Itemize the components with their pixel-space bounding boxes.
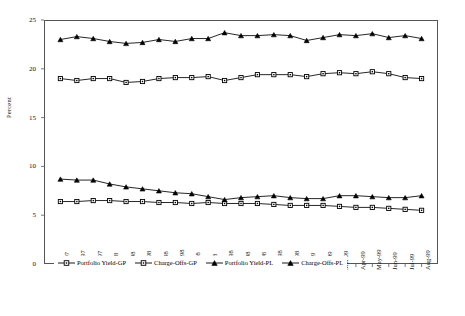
data-point-marker-core [143,262,144,263]
y-axis-tick-label: 25 [10,16,36,24]
x-axis-tick-label: May-99 [375,249,382,270]
series-portfolio-yield-pl [58,30,424,45]
data-point-marker-core [76,201,77,202]
y-axis-tick-label: 5 [10,211,36,219]
data-point-marker-core [125,201,126,202]
data-point-marker-core [306,205,307,206]
data-point-marker-core [290,205,291,206]
data-point-marker-core [339,206,340,207]
legend-label: Portfolio Yield-PL [225,259,273,267]
data-point-marker-core [60,201,61,202]
data-point-marker-core [76,80,77,81]
data-point-marker-core [191,203,192,204]
data-point-marker-core [175,77,176,78]
legend-label: Charge-Offs-GP [154,259,197,267]
data-point-marker-core [240,77,241,78]
data-point-marker-core [93,200,94,201]
y-axis-tick-label: 20 [10,65,36,73]
data-point-marker-core [109,200,110,201]
series-charge-offs-gp [58,198,423,212]
data-point-marker-core [158,202,159,203]
data-point-marker-core [175,202,176,203]
y-axis-tick-label: 15 [10,114,36,122]
data-point-marker-core [257,74,258,75]
chart-container: Percent 0510152025 Oct-97Nov-97Dec-97Jan… [0,0,465,316]
data-point-marker-core [306,76,307,77]
data-point-marker-core [404,209,405,210]
data-point-marker-core [207,202,208,203]
data-point-marker-core [66,262,67,263]
legend-marker-square-icon [135,259,152,267]
data-point-marker-core [273,74,274,75]
data-point-marker-core [60,78,61,79]
y-axis-tick-label: 0 [10,260,36,268]
x-axis-tick-label: Apr-99 [359,251,366,270]
legend-entry[interactable]: Portfolio Yield-PL [206,259,273,267]
data-point-marker-core [421,78,422,79]
legend-marker-triangle-icon [206,259,223,267]
legend-label: Portfolio Yield-GP [77,259,126,267]
series-charge-offs-pl [58,177,424,202]
data-point-marker-core [372,207,373,208]
data-point-marker-core [322,205,323,206]
data-point-marker-core [109,78,110,79]
legend-label: Charge-Offs-PL [301,259,343,267]
data-point-marker-core [257,203,258,204]
data-point-marker-core [125,82,126,83]
data-point-marker-core [191,77,192,78]
data-point-marker-core [322,73,323,74]
data-point-marker-core [388,73,389,74]
data-point-marker-core [224,203,225,204]
series-portfolio-yield-gp [58,70,423,85]
data-point-marker-core [404,77,405,78]
data-point-marker-core [142,201,143,202]
legend-entry[interactable]: Charge-Offs-PL [282,259,343,267]
data-point-marker-core [421,210,422,211]
legend-entry[interactable]: Charge-Offs-GP [135,259,197,267]
data-point-marker-core [355,73,356,74]
chart-legend: Portfolio Yield-GPCharge-Offs-GPPortfoli… [54,256,347,270]
x-axis-tick-label: Aug-99 [424,250,431,270]
data-point-marker-core [158,78,159,79]
data-point-marker-core [93,78,94,79]
legend-entry[interactable]: Portfolio Yield-GP [58,259,126,267]
y-axis-tick-label: 10 [10,162,36,170]
data-point-marker-core [273,204,274,205]
data-point-marker-core [240,203,241,204]
data-point-marker-core [372,71,373,72]
legend-marker-square-icon [58,259,75,267]
data-point-marker-core [339,72,340,73]
legend-marker-triangle-icon [282,259,299,267]
data-point-marker-core [355,207,356,208]
data-point-marker-core [142,81,143,82]
data-point-marker-core [224,80,225,81]
x-axis-tick-label: Jul-99 [408,254,415,270]
data-point-marker-core [290,74,291,75]
data-point-marker-core [207,76,208,77]
x-axis-tick-label: Jun-99 [391,252,398,270]
data-point-marker-core [388,208,389,209]
